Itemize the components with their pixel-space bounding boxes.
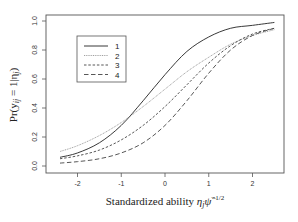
y-tick-label: 0.6 [31,74,38,84]
legend-label: 3 [115,61,120,70]
x-tick-label: -2 [74,180,80,187]
chart: 0.00.20.40.60.81.0 -2-1012 1234 Pr(yij =… [0,0,298,222]
x-tick-label: 0 [163,180,167,187]
x-axis: -2-1012 [74,173,254,187]
legend-label: 4 [115,71,120,80]
y-axis-title: Pr(yij = 1|ηj) [7,67,21,122]
y-tick-label: 0.4 [31,103,38,113]
x-tick-label: 2 [251,180,255,187]
legend-label: 1 [115,42,120,51]
legend-label: 2 [115,52,120,61]
y-tick-label: 0.0 [31,161,38,171]
y-tick-label: 0.8 [31,45,38,55]
legend: 1234 [77,36,126,82]
y-axis: 0.00.20.40.60.81.0 [31,16,46,171]
x-tick-label: 1 [207,180,211,187]
y-tick-label: 1.0 [31,16,38,26]
x-axis-title: Standardized ability ηjψ̂−1/2 [106,194,225,209]
x-tick-label: -1 [118,180,124,187]
y-tick-label: 0.2 [31,132,38,142]
